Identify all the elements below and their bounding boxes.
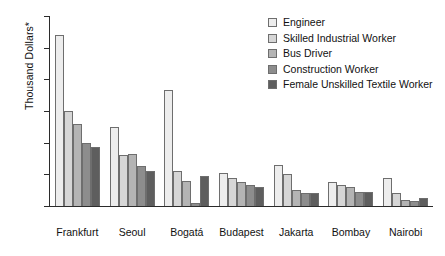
bar <box>73 124 82 206</box>
legend-label: Construction Worker <box>283 64 379 75</box>
bar <box>55 35 64 206</box>
bar <box>255 187 264 206</box>
legend-swatch-icon <box>268 65 277 74</box>
bar <box>283 174 292 206</box>
bar <box>191 203 200 206</box>
bar <box>219 173 228 206</box>
bar <box>82 143 91 206</box>
legend-label: Bus Driver <box>283 48 332 59</box>
bar <box>346 187 355 206</box>
bar <box>401 200 410 206</box>
bar <box>419 198 428 206</box>
y-axis-title: Thousand Dollars* <box>23 0 35 141</box>
bar <box>200 176 209 206</box>
legend-swatch-icon <box>268 49 277 58</box>
bar-group <box>164 16 209 206</box>
legend-swatch-icon <box>268 80 277 89</box>
bar <box>237 182 246 206</box>
bar <box>228 178 237 207</box>
legend-item: Female Unskilled Textile Worker <box>268 78 433 91</box>
bar-chart: Thousand Dollars* 0102030405060 Frankfur… <box>0 0 445 256</box>
legend-item: Engineer <box>268 16 433 29</box>
bar <box>164 90 173 206</box>
legend-item: Skilled Industrial Worker <box>268 32 433 45</box>
bar <box>292 190 301 206</box>
bar <box>146 171 155 206</box>
bar <box>328 182 337 206</box>
legend-swatch-icon <box>268 34 277 43</box>
bar <box>91 147 100 206</box>
legend-label: Engineer <box>283 17 325 28</box>
bar-group <box>219 16 264 206</box>
x-axis-label: Seoul <box>105 226 160 238</box>
x-axis-label: Budapest <box>214 226 269 238</box>
legend-label: Skilled Industrial Worker <box>283 33 396 44</box>
bar <box>137 166 146 206</box>
legend-item: Bus Driver <box>268 47 433 60</box>
bar <box>246 185 255 206</box>
bar <box>364 192 373 206</box>
bar-group <box>110 16 155 206</box>
bar <box>337 185 346 206</box>
bar <box>173 171 182 206</box>
bar <box>383 178 392 207</box>
bar <box>64 111 73 206</box>
bar <box>110 127 119 206</box>
bar <box>310 193 319 206</box>
legend-item: Construction Worker <box>268 63 433 76</box>
x-axis-label: Nairobi <box>378 226 433 238</box>
bar <box>410 201 419 206</box>
bar <box>301 193 310 206</box>
x-axis-label: Bogatá <box>159 226 214 238</box>
bar-group <box>55 16 100 206</box>
x-axis-label: Bombay <box>324 226 379 238</box>
bar <box>119 155 128 206</box>
legend: EngineerSkilled Industrial WorkerBus Dri… <box>268 16 433 91</box>
legend-label: Female Unskilled Textile Worker <box>283 79 433 90</box>
bar <box>274 165 283 206</box>
bar <box>182 181 191 206</box>
bar <box>128 154 137 206</box>
x-axis-label: Frankfurt <box>50 226 105 238</box>
x-axis-label: Jakarta <box>269 226 324 238</box>
x-axis-line <box>49 206 433 207</box>
legend-swatch-icon <box>268 18 277 27</box>
bar <box>392 193 401 206</box>
bar <box>355 192 364 206</box>
